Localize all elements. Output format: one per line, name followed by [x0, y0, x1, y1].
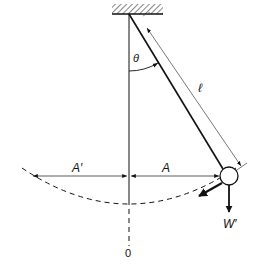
weight-label: W′	[223, 217, 237, 231]
restoring-force-arrow	[199, 183, 222, 196]
pendulum-bob	[220, 167, 238, 185]
theta-label: θ	[133, 52, 139, 64]
length-label: ℓ	[198, 81, 203, 95]
length-dimension	[143, 12, 247, 172]
pendulum-diagram: ℓ θ A′ A W′ 0	[0, 0, 263, 268]
pendulum-string	[129, 14, 223, 169]
origin-label: 0	[125, 247, 131, 259]
ceiling-support	[112, 4, 163, 14]
amplitude-left-label: A′	[71, 161, 83, 175]
theta-arc	[129, 63, 158, 71]
amplitude-right-label: A	[161, 161, 170, 175]
